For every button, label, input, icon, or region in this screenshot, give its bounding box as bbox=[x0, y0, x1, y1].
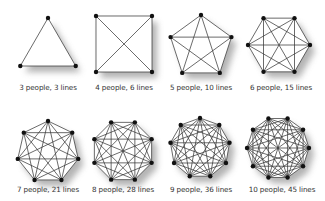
person-node-icon bbox=[292, 70, 296, 74]
graph-drawings bbox=[0, 0, 325, 201]
person-node-icon bbox=[46, 119, 50, 123]
figure-label-4-people: 4 people, 6 lines bbox=[84, 83, 165, 92]
person-node-icon bbox=[133, 177, 137, 181]
person-node-icon bbox=[179, 123, 183, 127]
person-node-icon bbox=[285, 116, 289, 120]
person-node-icon bbox=[168, 141, 172, 145]
person-node-icon bbox=[229, 35, 233, 39]
person-node-icon bbox=[224, 161, 228, 165]
figure-label-5-people: 5 people, 10 lines bbox=[161, 83, 242, 92]
figure-label-9-people: 9 people, 36 lines bbox=[161, 185, 242, 194]
person-node-icon bbox=[172, 161, 176, 165]
person-node-icon bbox=[74, 64, 78, 68]
person-node-icon bbox=[180, 71, 184, 75]
person-node-icon bbox=[251, 164, 255, 168]
person-node-icon bbox=[92, 161, 96, 165]
person-node-icon bbox=[208, 174, 212, 178]
person-node-icon bbox=[251, 128, 255, 132]
person-node-icon bbox=[70, 130, 74, 134]
person-node-icon bbox=[150, 14, 154, 18]
complete-graph-diagram: 3 people, 3 lines 4 people, 6 lines 5 pe… bbox=[0, 0, 325, 201]
person-node-icon bbox=[92, 137, 96, 141]
person-node-icon bbox=[246, 43, 250, 47]
person-node-icon bbox=[266, 175, 270, 179]
person-node-icon bbox=[149, 161, 153, 165]
person-node-icon bbox=[301, 164, 305, 168]
person-node-icon bbox=[133, 120, 137, 124]
person-node-icon bbox=[188, 174, 192, 178]
person-node-icon bbox=[301, 128, 305, 132]
person-node-icon bbox=[109, 177, 113, 181]
figure-label-7-people: 7 people, 21 lines bbox=[8, 185, 89, 194]
figure-label-8-people: 8 people, 28 lines bbox=[83, 185, 164, 194]
person-node-icon bbox=[245, 146, 249, 150]
person-node-icon bbox=[199, 13, 203, 17]
person-node-icon bbox=[308, 43, 312, 47]
person-node-icon bbox=[22, 130, 26, 134]
person-node-icon bbox=[261, 70, 265, 74]
person-node-icon bbox=[94, 14, 98, 18]
person-node-icon bbox=[218, 71, 222, 75]
person-node-icon bbox=[261, 16, 265, 20]
person-node-icon bbox=[94, 70, 98, 74]
person-node-icon bbox=[46, 16, 50, 20]
person-node-icon bbox=[292, 16, 296, 20]
person-node-icon bbox=[227, 141, 231, 145]
person-node-icon bbox=[16, 157, 20, 161]
person-node-icon bbox=[109, 120, 113, 124]
person-node-icon bbox=[150, 70, 154, 74]
figure-label-10-people: 10 people, 45 lines bbox=[242, 185, 323, 194]
figure-label-6-people: 6 people, 15 lines bbox=[241, 83, 322, 92]
person-node-icon bbox=[285, 175, 289, 179]
person-node-icon bbox=[168, 35, 172, 39]
person-node-icon bbox=[307, 146, 311, 150]
figure-label-3-people: 3 people, 3 lines bbox=[8, 83, 89, 92]
person-node-icon bbox=[149, 137, 153, 141]
person-node-icon bbox=[32, 178, 36, 182]
person-node-icon bbox=[76, 157, 80, 161]
person-node-icon bbox=[198, 116, 202, 120]
person-node-icon bbox=[59, 178, 63, 182]
person-node-icon bbox=[217, 123, 221, 127]
person-node-icon bbox=[18, 64, 22, 68]
person-node-icon bbox=[266, 116, 270, 120]
